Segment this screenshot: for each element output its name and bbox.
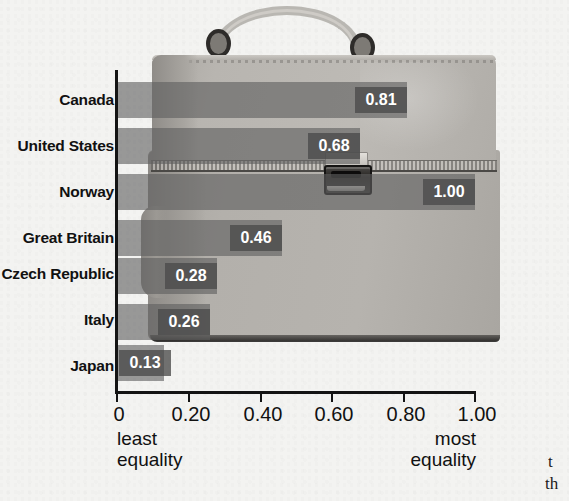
value-label-norway: 1.00 [423,179,475,205]
bar-chart: Canada United States Norway Great Britai… [0,0,569,501]
x-tick-label-080: 0.80 [387,403,426,426]
value-label-canada: 0.81 [355,87,407,113]
category-label-czech-republic: Czech Republic [1,265,114,283]
axis-caption-least-line1: least [117,428,183,449]
x-tick-080 [403,393,405,402]
axis-caption-least-line2: equality [117,449,183,470]
x-tick-060 [331,393,333,402]
x-tick-label-020: 0.20 [172,403,211,426]
x-tick-020 [188,393,190,402]
bar-norway [117,174,475,210]
cut-body-text-fragment-2: th [545,474,569,494]
value-label-great-britain: 0.46 [230,225,282,251]
x-tick-100 [474,393,476,402]
axis-caption-most-line2: equality [411,449,477,470]
x-tick-040 [260,393,262,402]
category-label-great-britain: Great Britain [23,229,114,247]
axis-caption-most-equality: most equality [411,428,477,470]
axis-caption-most-line1: most [411,428,477,449]
category-label-canada: Canada [59,91,114,109]
x-tick-label-040: 0.40 [244,403,283,426]
value-label-italy: 0.26 [158,309,210,335]
value-label-czech-republic: 0.28 [165,263,217,289]
x-tick-label-060: 0.60 [315,403,354,426]
cut-body-text-fragment-1: t [548,452,569,472]
category-label-united-states: United States [18,137,114,155]
page-background: Canada United States Norway Great Britai… [0,0,569,501]
category-label-norway: Norway [59,183,114,201]
x-axis-line [115,391,476,394]
category-label-italy: Italy [84,311,114,329]
category-label-japan: Japan [70,357,114,375]
x-tick-0 [116,393,118,402]
x-tick-label-100: 1.00 [458,403,497,426]
axis-caption-least-equality: least equality [117,428,183,470]
y-axis-line [115,70,118,394]
x-tick-label-0: 0 [113,403,124,426]
value-label-united-states: 0.68 [308,133,360,159]
value-label-japan: 0.13 [119,350,171,376]
